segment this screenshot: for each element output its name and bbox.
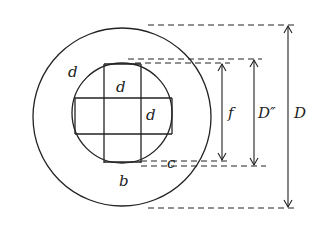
label-inner-right-d: d (146, 106, 156, 124)
label-b: b (119, 172, 129, 190)
label-inner-top-d: d (116, 78, 126, 96)
label-f: f (227, 104, 236, 122)
label-c: c (167, 154, 176, 172)
diagram-canvas: d d d b c f D″ D (0, 0, 329, 228)
label-d-double-prime: D″ (257, 104, 276, 122)
label-big-d: D (293, 104, 306, 122)
label-outer-d: d (68, 63, 78, 81)
